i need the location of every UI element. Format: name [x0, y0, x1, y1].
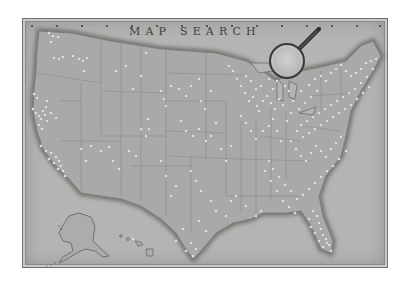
map-pin-northeast[interactable] — [308, 132, 311, 135]
map-pin-california[interactable] — [55, 156, 58, 159]
map-pin-southeast[interactable] — [338, 158, 341, 161]
map-pin-northeast[interactable] — [335, 68, 338, 71]
map-pin-midwest-great-lakes[interactable] — [276, 130, 279, 133]
map-pin-mountain-west[interactable] — [118, 168, 121, 171]
map-pin-southeast[interactable] — [315, 145, 318, 148]
map-pin-california[interactable] — [48, 158, 51, 161]
map-pin-southeast[interactable] — [320, 150, 323, 153]
map-pin-midwest-great-lakes[interactable] — [262, 100, 265, 103]
map-pin-northeast[interactable] — [345, 70, 348, 73]
map-pin-southeast[interactable] — [310, 152, 313, 155]
map-pin-midwest-great-lakes[interactable] — [232, 70, 235, 73]
map-pin-midwest-great-lakes[interactable] — [282, 104, 285, 107]
map-pin-texas-gulf[interactable] — [192, 255, 195, 258]
map-pin-florida[interactable] — [320, 228, 323, 231]
map-pin-california[interactable] — [50, 152, 53, 155]
map-pin-northeast[interactable] — [296, 130, 299, 133]
map-pin-northeast[interactable] — [365, 62, 368, 65]
map-pin-pacific-northwest[interactable] — [82, 60, 85, 63]
map-pin-plains[interactable] — [190, 170, 193, 173]
map-pin-california[interactable] — [33, 93, 36, 96]
map-pin-northeast[interactable] — [356, 98, 359, 101]
map-pin-northeast[interactable] — [326, 120, 329, 123]
map-pin-mountain-west[interactable] — [147, 118, 150, 121]
map-pin-california[interactable] — [50, 112, 53, 115]
map-pin-midwest-great-lakes[interactable] — [268, 125, 271, 128]
map-pin-california[interactable] — [60, 165, 63, 168]
map-pin-northeast[interactable] — [314, 78, 317, 81]
map-pin-plains[interactable] — [220, 148, 223, 151]
map-pin-plains[interactable] — [175, 185, 178, 188]
map-pin-california[interactable] — [64, 175, 67, 178]
map-pin-midwest-great-lakes[interactable] — [256, 105, 259, 108]
map-pin-southeast[interactable] — [290, 140, 293, 143]
map-pin-plains[interactable] — [180, 120, 183, 123]
map-pin-plains[interactable] — [160, 90, 163, 93]
map-pin-plains[interactable] — [230, 145, 233, 148]
map-pin-california[interactable] — [38, 115, 41, 118]
map-pin-texas-gulf[interactable] — [230, 200, 233, 203]
map-pin-california[interactable] — [58, 160, 61, 163]
map-pin-mountain-west[interactable] — [148, 128, 151, 131]
map-pin-plains[interactable] — [198, 78, 201, 81]
map-pin-midwest-great-lakes[interactable] — [245, 75, 248, 78]
map-pin-plains[interactable] — [163, 98, 166, 101]
map-pin-plains[interactable] — [215, 122, 218, 125]
map-pin-northeast[interactable] — [320, 75, 323, 78]
map-pin-northeast[interactable] — [366, 76, 369, 79]
map-pin-texas-gulf[interactable] — [185, 250, 188, 253]
map-pin-northeast[interactable] — [362, 92, 365, 95]
map-pin-california[interactable] — [38, 124, 41, 127]
map-pin-mountain-west[interactable] — [135, 155, 138, 158]
map-pin-midwest-great-lakes[interactable] — [270, 102, 273, 105]
map-pin-midwest-great-lakes[interactable] — [288, 90, 291, 93]
map-pin-northeast[interactable] — [325, 80, 328, 83]
map-pin-northeast[interactable] — [310, 96, 313, 99]
map-pin-northeast[interactable] — [342, 96, 345, 99]
map-pin-plains[interactable] — [178, 88, 181, 91]
map-pin-northeast[interactable] — [330, 72, 333, 75]
map-pin-northeast[interactable] — [375, 58, 378, 61]
map-pin-midwest-great-lakes[interactable] — [245, 122, 248, 125]
map-pin-southeast[interactable] — [330, 148, 333, 151]
map-pin-california[interactable] — [44, 114, 47, 117]
map-pin-midwest-great-lakes[interactable] — [228, 65, 231, 68]
map-pin-florida[interactable] — [322, 234, 325, 237]
map-pin-northeast[interactable] — [336, 100, 339, 103]
map-pin-plains[interactable] — [215, 210, 218, 213]
map-pin-midwest-great-lakes[interactable] — [240, 85, 243, 88]
map-pin-pacific-northwest[interactable] — [62, 56, 65, 59]
map-pin-plains[interactable] — [170, 85, 173, 88]
map-pin-florida[interactable] — [326, 242, 329, 245]
map-pin-pacific-northwest[interactable] — [72, 55, 75, 58]
map-pin-southeast[interactable] — [284, 184, 287, 187]
map-pin-pacific-northwest[interactable] — [50, 41, 53, 44]
map-pin-plains[interactable] — [185, 95, 188, 98]
map-pin-california[interactable] — [35, 112, 38, 115]
map-pin-plains[interactable] — [210, 135, 213, 138]
map-pin-northeast[interactable] — [324, 108, 327, 111]
map-pin-midwest-great-lakes[interactable] — [255, 88, 258, 91]
map-pin-florida[interactable] — [322, 246, 325, 249]
map-pin-southeast[interactable] — [335, 142, 338, 145]
map-pin-northeast[interactable] — [350, 75, 353, 78]
map-pin-southeast[interactable] — [296, 198, 299, 201]
map-pin-southeast[interactable] — [290, 190, 293, 193]
map-pin-pacific-northwest[interactable] — [78, 58, 81, 61]
map-pin-midwest-great-lakes[interactable] — [280, 140, 283, 143]
map-pin-midwest-great-lakes[interactable] — [258, 110, 261, 113]
map-pin-plains[interactable] — [198, 128, 201, 131]
map-pin-southeast[interactable] — [278, 176, 281, 179]
map-pin-southeast[interactable] — [264, 170, 267, 173]
map-pin-northeast[interactable] — [298, 108, 301, 111]
map-pin-plains[interactable] — [210, 90, 213, 93]
map-pin-pacific-northwest[interactable] — [53, 57, 56, 60]
map-pin-mountain-west[interactable] — [140, 75, 143, 78]
map-pin-california[interactable] — [32, 108, 35, 111]
map-pin-florida[interactable] — [316, 215, 319, 218]
map-pin-texas-gulf[interactable] — [245, 205, 248, 208]
map-pin-northeast[interactable] — [330, 104, 333, 107]
map-pin-pacific-northwest[interactable] — [52, 35, 55, 38]
map-pin-mountain-west[interactable] — [140, 128, 143, 131]
map-pin-northeast[interactable] — [332, 116, 335, 119]
